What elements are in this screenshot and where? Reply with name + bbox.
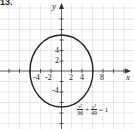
eq-plus: +: [85, 107, 89, 114]
x-tick-label: -4: [33, 74, 40, 82]
equation: x² 36 + y² 49 = 1: [77, 104, 108, 116]
y-axis-arrow: [59, 3, 64, 9]
x-tick-label: 2: [69, 74, 73, 82]
x-axis-label: x: [126, 73, 130, 82]
eq-term1-denominator: 36: [77, 110, 83, 116]
x-tick-label: 8: [100, 74, 104, 82]
eq-equals: = 1: [99, 107, 108, 114]
x-tick-label: 4: [80, 74, 84, 82]
ellipse-graph: [0, 0, 134, 129]
y-tick-label: 2: [55, 57, 59, 65]
y-tick-label: 4: [55, 47, 59, 55]
x-tick-label: -2: [45, 74, 52, 82]
y-tick-label: -4: [52, 87, 59, 95]
y-axis-label: y: [52, 2, 56, 11]
grid: [0, 4, 134, 129]
eq-term2-denominator: 49: [91, 110, 97, 116]
